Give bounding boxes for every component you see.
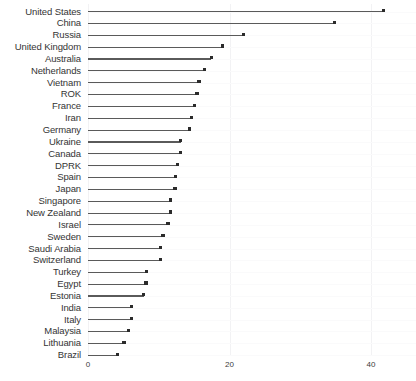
category-label: Turkey — [0, 266, 81, 278]
lollipop-stem — [88, 130, 189, 131]
lollipop-dot — [195, 92, 198, 95]
lollipop-stem — [88, 355, 118, 356]
category-label: United Kingdom — [0, 41, 81, 53]
lollipop-stem — [88, 284, 146, 285]
lollipop-stem — [88, 224, 168, 225]
lollipop-stem — [88, 236, 163, 237]
lollipop-dot — [179, 139, 182, 142]
lollipop-dot — [242, 33, 245, 36]
lollipop-dot — [188, 127, 191, 130]
lollipop-dot — [159, 246, 162, 249]
chart-row: Sweden — [0, 231, 416, 243]
chart-row: Singapore — [0, 195, 416, 207]
lollipop-stem — [88, 165, 177, 166]
chart-row: Malaysia — [0, 325, 416, 337]
category-label: Australia — [0, 53, 81, 65]
chart-row: Israel — [0, 219, 416, 231]
lollipop-stem — [88, 35, 244, 36]
lollipop-stem — [88, 307, 131, 308]
category-label: Vietnam — [0, 77, 81, 89]
x-axis-tick-label: 20 — [215, 360, 245, 369]
chart-row: Turkey — [0, 266, 416, 278]
category-label: Egypt — [0, 278, 81, 290]
lollipop-dot — [173, 187, 176, 190]
chart-row: Switzerland — [0, 254, 416, 266]
lollipop-dot — [130, 317, 133, 320]
chart-row: Vietnam — [0, 77, 416, 89]
chart-row: Canada — [0, 148, 416, 160]
category-label: Russia — [0, 29, 81, 41]
category-label: Malaysia — [0, 325, 81, 337]
category-label: Lithuania — [0, 337, 81, 349]
category-label: Germany — [0, 124, 81, 136]
chart-row: Japan — [0, 183, 416, 195]
chart-row: China — [0, 17, 416, 29]
lollipop-dot — [197, 80, 200, 83]
category-label: France — [0, 100, 81, 112]
category-label: DPRK — [0, 160, 81, 172]
chart-row: Iran — [0, 112, 416, 124]
category-label: Canada — [0, 148, 81, 160]
x-axis-tick-label: 40 — [356, 360, 386, 369]
category-label: Switzerland — [0, 254, 81, 266]
category-label: Estonia — [0, 290, 81, 302]
lollipop-dot — [161, 234, 164, 237]
category-label: ROK — [0, 88, 81, 100]
chart-row: Germany — [0, 124, 416, 136]
lollipop-stem — [88, 141, 181, 142]
category-label: Brazil — [0, 349, 81, 361]
lollipop-stem — [88, 201, 171, 202]
chart-row: France — [0, 100, 416, 112]
category-label: Sweden — [0, 231, 81, 243]
category-label: India — [0, 302, 81, 314]
lollipop-stem — [88, 11, 384, 12]
lollipop-dot — [179, 151, 182, 154]
lollipop-dot — [333, 21, 336, 24]
lollipop-stem — [88, 106, 195, 107]
chart-row: Estonia — [0, 290, 416, 302]
lollipop-stem — [88, 248, 161, 249]
chart-row: Egypt — [0, 278, 416, 290]
lollipop-stem — [88, 58, 211, 59]
chart-row: Brazil — [0, 349, 416, 361]
chart-row: DPRK — [0, 160, 416, 172]
category-label: Japan — [0, 183, 81, 195]
lollipop-stem — [88, 260, 160, 261]
lollipop-stem — [88, 213, 171, 214]
lollipop-stem — [88, 319, 131, 320]
lollipop-dot — [116, 353, 119, 356]
lollipop-dot — [193, 104, 196, 107]
lollipop-dot — [174, 175, 177, 178]
category-label: United States — [0, 6, 81, 18]
lollipop-stem — [88, 82, 199, 83]
lollipop-stem — [88, 272, 147, 273]
lollipop-stem — [88, 295, 144, 296]
lollipop-dot — [130, 305, 133, 308]
category-label: Spain — [0, 171, 81, 183]
chart-row: Ukraine — [0, 136, 416, 148]
chart-row: United States — [0, 6, 416, 18]
lollipop-stem — [88, 70, 205, 71]
lollipop-dot — [169, 198, 172, 201]
category-label: Ukraine — [0, 136, 81, 148]
plot-area: United StatesChinaRussiaUnited KingdomAu… — [0, 0, 416, 355]
category-label: Iran — [0, 112, 81, 124]
lollipop-stem — [88, 23, 334, 24]
chart-row: Lithuania — [0, 337, 416, 349]
lollipop-dot — [203, 68, 206, 71]
category-label: Netherlands — [0, 65, 81, 77]
lollipop-dot — [122, 341, 125, 344]
lollipop-dot — [210, 56, 213, 59]
lollipop-dot — [127, 329, 130, 332]
lollipop-dot — [159, 258, 162, 261]
lollipop-dot — [176, 163, 179, 166]
lollipop-stem — [88, 94, 197, 95]
lollipop-stem — [88, 177, 176, 178]
lollipop-stem — [88, 153, 181, 154]
category-label: New Zealand — [0, 207, 81, 219]
chart-row: India — [0, 302, 416, 314]
lollipop-stem — [88, 118, 191, 119]
lollipop-dot — [190, 116, 193, 119]
chart-row: ROK — [0, 88, 416, 100]
lollipop-dot — [221, 44, 224, 47]
